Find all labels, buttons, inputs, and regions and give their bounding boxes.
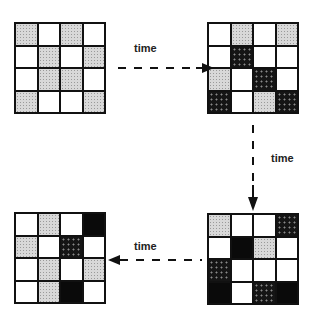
grid-cell (16, 282, 37, 303)
grid-cell (16, 237, 37, 258)
grid-cell (209, 24, 230, 45)
grid-state-2 (207, 22, 299, 114)
grid-cell (277, 215, 298, 236)
grid-cell (39, 47, 60, 68)
grid-cell (254, 47, 275, 68)
grid-cell (232, 238, 253, 259)
grid-cell (16, 259, 37, 280)
grid-cell (61, 214, 82, 235)
grid-cell (254, 92, 275, 113)
grid-cell (84, 69, 105, 90)
grid-cell (277, 92, 298, 113)
arrow-label-time-1: time (134, 42, 157, 54)
grid-cell (84, 24, 105, 45)
grid-state-4 (14, 212, 106, 304)
grid-cell (254, 260, 275, 281)
grid-cell (16, 24, 37, 45)
grid-cell (84, 214, 105, 235)
grid-cell (232, 47, 253, 68)
grid-cell (277, 69, 298, 90)
arrow-label-time-2: time (271, 152, 294, 164)
grid-cell (39, 69, 60, 90)
dashed-arrow-left-icon (106, 255, 206, 265)
grid-cell (209, 92, 230, 113)
grid-cell (16, 69, 37, 90)
grid-cell (254, 238, 275, 259)
arrow-label-time-3: time (134, 240, 157, 252)
grid-cell (39, 259, 60, 280)
dashed-arrow-down-icon (248, 125, 258, 225)
grid-cell (16, 47, 37, 68)
grid-cell (254, 283, 275, 304)
grid-cell (254, 24, 275, 45)
grid-cell (84, 282, 105, 303)
grid-cell (39, 92, 60, 113)
grid-cell (61, 47, 82, 68)
grid-cell (61, 69, 82, 90)
dashed-arrow-right-icon (118, 63, 218, 73)
grid-cell (39, 237, 60, 258)
grid-cell (84, 259, 105, 280)
grid-cell (84, 92, 105, 113)
grid-cell (232, 69, 253, 90)
grid-cell (277, 260, 298, 281)
grid-cell (254, 69, 275, 90)
grid-cell (84, 47, 105, 68)
grid-cell (39, 24, 60, 45)
grid-cell (39, 282, 60, 303)
grid-cell (232, 24, 253, 45)
grid-cell (277, 283, 298, 304)
grid-cell (84, 237, 105, 258)
grid-cell (209, 260, 230, 281)
grid-cell (209, 215, 230, 236)
grid-cell (61, 282, 82, 303)
grid-cell (16, 214, 37, 235)
grid-cell (232, 92, 253, 113)
grid-cell (277, 238, 298, 259)
grid-cell (16, 92, 37, 113)
grid-cell (232, 283, 253, 304)
grid-cell (277, 24, 298, 45)
grid-cell (39, 214, 60, 235)
grid-cell (209, 238, 230, 259)
grid-cell (61, 92, 82, 113)
grid-cell (61, 24, 82, 45)
grid-cell (232, 260, 253, 281)
grid-cell (277, 47, 298, 68)
grid-state-1 (14, 22, 106, 114)
grid-cell (61, 237, 82, 258)
grid-cell (209, 283, 230, 304)
grid-state-3 (207, 213, 299, 305)
grid-cell (61, 259, 82, 280)
